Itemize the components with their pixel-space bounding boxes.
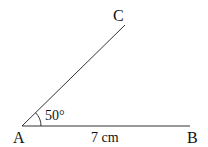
segment-ac: [22, 25, 125, 126]
triangle-diagram: C A B 7 cm 50°: [0, 0, 208, 147]
angle-a-label: 50°: [45, 108, 65, 123]
vertex-c-label: C: [113, 7, 124, 24]
vertex-a-label: A: [13, 129, 25, 146]
vertex-b-label: B: [187, 129, 198, 146]
side-ab-length: 7 cm: [91, 130, 119, 145]
angle-arc: [36, 113, 41, 126]
